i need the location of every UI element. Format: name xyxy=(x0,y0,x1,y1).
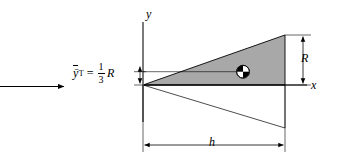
y-axis-label: y xyxy=(146,8,151,20)
ybar-equation-label: ȳT = 1 3 R xyxy=(73,62,114,85)
fraction-denominator: 3 xyxy=(98,75,105,86)
R-dimension-label: R xyxy=(301,52,308,64)
centroid-triangle-figure: y x R h ȳT = 1 3 R xyxy=(0,0,342,166)
figure-canvas xyxy=(0,0,342,166)
fraction-numerator: 1 xyxy=(98,62,105,73)
fraction-multiplicand: R xyxy=(107,66,114,81)
equals-sign: = xyxy=(87,66,94,81)
ybar-subscript: T xyxy=(79,69,84,78)
ybar-symbol: ȳ xyxy=(73,66,78,81)
lower-triangle-shape xyxy=(143,85,285,128)
x-axis-label: x xyxy=(311,79,316,91)
upper-triangle-shape xyxy=(143,35,285,85)
h-dimension-label: h xyxy=(209,136,215,148)
one-third-fraction: 1 3 xyxy=(98,62,105,85)
ybar-dimension xyxy=(134,67,146,86)
centroid-icon xyxy=(237,65,250,78)
